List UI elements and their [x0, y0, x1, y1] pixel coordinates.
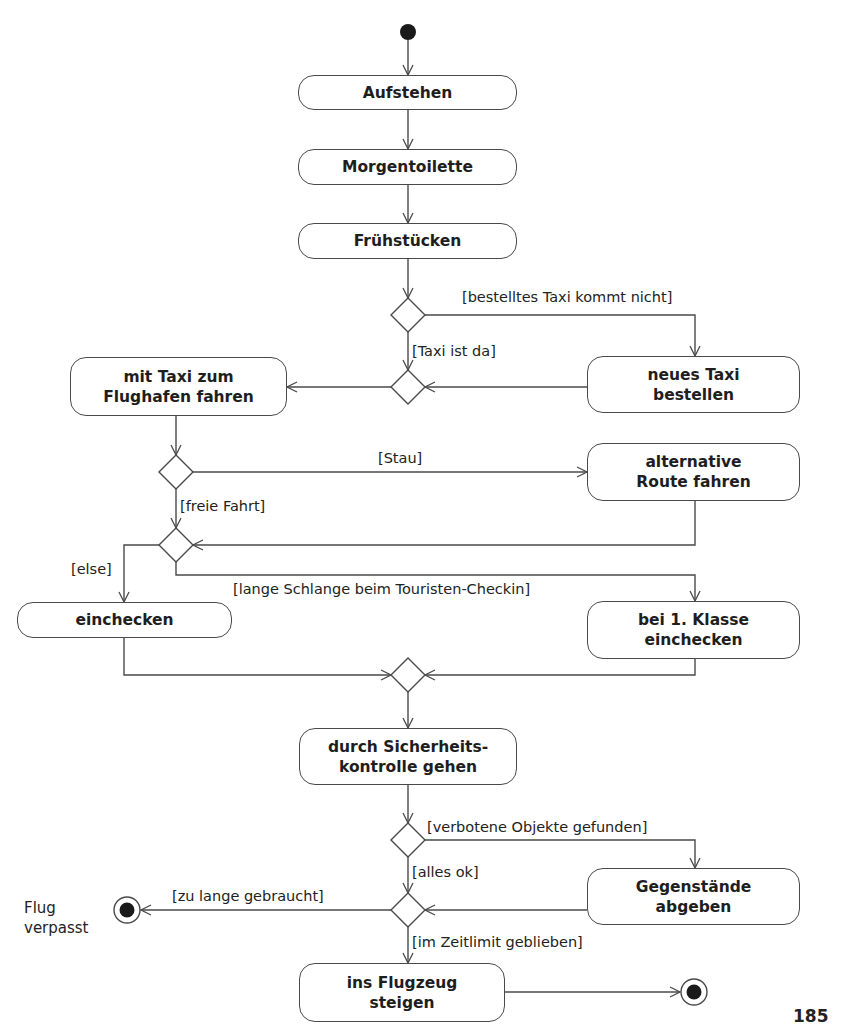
action-alternative-route: alternative Route fahren — [587, 443, 800, 501]
merge-checkin-diamond — [391, 658, 425, 692]
final-label-flug-verpasst: Flug verpasst — [24, 898, 89, 938]
guard-taxi-kommt-nicht: [bestelltes Taxi kommt nicht] — [462, 288, 672, 306]
final-node-icon — [681, 979, 707, 1005]
action-fruehstuecken: Frühstücken — [298, 223, 517, 259]
guard-else: [else] — [71, 560, 112, 578]
guard-freie-fahrt: [freie Fahrt] — [180, 497, 265, 515]
edge-alternative-route-merge — [193, 501, 695, 545]
decision-taxi-diamond — [391, 298, 425, 332]
decision-zeit-diamond — [391, 893, 425, 927]
action-neues-taxi: neues Taxi bestellen — [587, 356, 800, 413]
merge-taxi-diamond — [391, 370, 425, 404]
guard-alles-ok: [alles ok] — [412, 863, 479, 881]
decision-checkin-diamond — [159, 528, 193, 562]
decision-stau-diamond — [159, 455, 193, 489]
guard-zu-lange: [zu lange gebraucht] — [172, 887, 324, 905]
page-number: 185 — [793, 1006, 829, 1026]
decision-kontrolle-diamond — [391, 823, 425, 857]
action-morgentoilette: Morgentoilette — [298, 149, 517, 185]
guard-verbotene-objekte: [verbotene Objekte gefunden] — [427, 818, 647, 836]
activity-diagram: Aufstehen Morgentoilette Frühstücken mit… — [0, 0, 846, 1028]
action-einchecken: einchecken — [17, 602, 232, 638]
action-aufstehen: Aufstehen — [298, 75, 517, 110]
action-erste-klasse: bei 1. Klasse einchecken — [587, 601, 800, 659]
action-sicherheitskontrolle: durch Sicherheits- kontrolle gehen — [299, 728, 517, 785]
final-node-flug-verpasst-icon — [114, 897, 140, 923]
action-einsteigen: ins Flugzeug steigen — [299, 963, 505, 1022]
guard-im-zeitlimit: [im Zeitlimit geblieben] — [412, 933, 583, 951]
action-gegenstaende: Gegenstände abgeben — [587, 868, 800, 925]
guard-stau: [Stau] — [378, 449, 422, 467]
edge-einchecken-merge — [124, 638, 391, 675]
edge-erste-klasse-merge — [425, 659, 695, 675]
guard-taxi-ist-da: [Taxi ist da] — [412, 342, 496, 360]
initial-node-icon — [400, 24, 416, 40]
guard-lange-schlange: [lange Schlange beim Touristen-Checkin] — [233, 580, 530, 598]
action-taxi-fahren: mit Taxi zum Flughafen fahren — [70, 357, 287, 416]
edge-else — [124, 545, 159, 602]
